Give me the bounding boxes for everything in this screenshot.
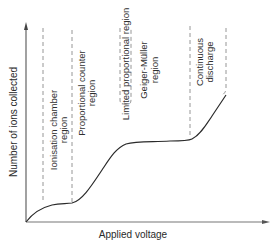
ion-collection-diagram: Ionisation chamber region Proportional c… bbox=[0, 0, 280, 247]
geiger-line-1: Geiger-Müller bbox=[138, 41, 149, 99]
region-label-limited-proportional: Limited proportional region bbox=[120, 8, 131, 120]
region-label-continuous-discharge: Continuous discharge bbox=[194, 38, 215, 86]
region-label-ionisation: Ionisation chamber region bbox=[48, 90, 69, 170]
ionisation-line-2: region bbox=[58, 117, 69, 143]
y-axis-arrow-icon bbox=[24, 22, 28, 30]
limited-proportional-line-1: Limited proportional region bbox=[120, 8, 131, 120]
x-axis-label: Applied voltage bbox=[99, 229, 168, 240]
region-label-geiger-muller: Geiger-Müller region bbox=[138, 41, 160, 99]
continuous-line-2: discharge bbox=[204, 41, 215, 82]
y-axis-label: Number of ions collected bbox=[8, 67, 19, 177]
proportional-line-2: region bbox=[86, 80, 97, 106]
boundary-continuous-discharge bbox=[222, 28, 226, 95]
x-axis-arrow-icon bbox=[262, 220, 270, 224]
geiger-line-2: region bbox=[149, 57, 160, 83]
region-label-proportional: Proportional counter region bbox=[76, 50, 97, 136]
